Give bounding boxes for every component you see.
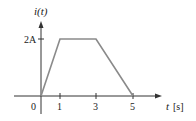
current-waveform-chart: i(t) 2A 0 1 3 5 t [s]	[0, 0, 196, 121]
current-curve	[41, 39, 133, 96]
x-tick-label-5: 5	[130, 101, 135, 112]
x-tick-label-3: 3	[93, 101, 98, 112]
x-axis-arrow-icon	[155, 94, 162, 99]
x-axis-label-t: t	[166, 100, 170, 112]
y-axis-label: i(t)	[34, 5, 48, 18]
y-tick-label-2A: 2A	[24, 34, 37, 45]
x-tick-label-1: 1	[57, 101, 62, 112]
x-tick-label-0: 0	[31, 101, 36, 112]
y-axis-arrow-icon	[39, 21, 44, 28]
x-axis-label-unit: [s]	[173, 101, 184, 112]
